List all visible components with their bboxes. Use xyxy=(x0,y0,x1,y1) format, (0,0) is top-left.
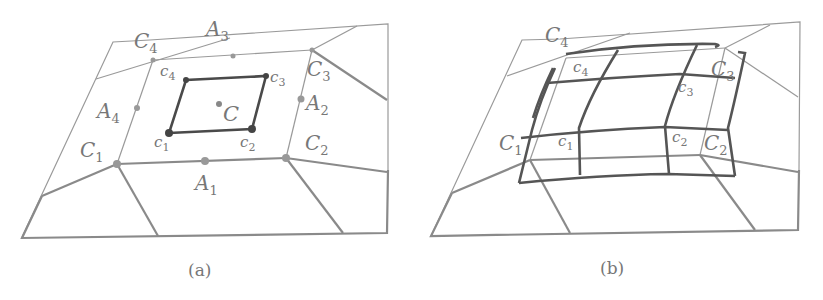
edge xyxy=(117,164,158,236)
point-c4 xyxy=(183,77,189,83)
point-C2 xyxy=(282,154,290,162)
point-c1 xyxy=(165,129,173,137)
point-c3 xyxy=(263,73,269,79)
point-C3 xyxy=(310,48,315,53)
outer-boundary-bottom xyxy=(431,170,799,236)
label-C1: C1 xyxy=(80,138,104,165)
label-C4: C4 xyxy=(134,29,158,56)
caption-b: (b) xyxy=(600,258,624,278)
point-C xyxy=(216,101,222,107)
figure-canvas: C4 A3 c4 c3 C3 A4 C A2 c1 c2 C1 C2 A1 (a… xyxy=(0,0,823,300)
point-A2 xyxy=(298,96,305,103)
point-A3 xyxy=(231,54,236,59)
edge xyxy=(700,155,755,230)
label-C2: C2 xyxy=(704,131,728,158)
label-c1: c1 xyxy=(558,132,573,153)
point-A1 xyxy=(201,157,209,165)
label-A3: A3 xyxy=(204,17,229,44)
panel-b: C4 c4 C3 c3 C1 c1 c2 C2 (b) xyxy=(431,22,800,278)
label-c3: c3 xyxy=(270,68,285,89)
point-C4 xyxy=(151,58,156,63)
label-c4: c4 xyxy=(573,58,588,79)
label-C1: C1 xyxy=(499,131,523,158)
edge xyxy=(700,155,798,172)
edge xyxy=(286,158,387,172)
label-A4: A4 xyxy=(95,99,120,126)
edge xyxy=(312,26,357,50)
label-C4: C4 xyxy=(545,23,569,50)
label-c4: c4 xyxy=(160,62,175,83)
label-c3: c3 xyxy=(678,78,693,99)
point-c2 xyxy=(248,125,256,133)
label-C: C xyxy=(223,102,239,126)
edge xyxy=(286,158,343,233)
edge xyxy=(530,155,700,160)
label-c2: c2 xyxy=(672,128,687,149)
edge xyxy=(530,160,570,233)
point-C1 xyxy=(113,160,121,168)
caption-a: (a) xyxy=(188,260,211,280)
panel-a: C4 A3 c4 c3 C3 A4 C A2 c1 c2 C1 C2 A1 (a… xyxy=(22,17,388,280)
edge xyxy=(725,25,770,48)
label-C2: C2 xyxy=(305,131,329,158)
label-c2: c2 xyxy=(240,133,255,154)
label-C3: C3 xyxy=(711,57,735,84)
label-A1: A1 xyxy=(193,171,218,198)
edge-c4-c1 xyxy=(117,60,153,164)
point-A4 xyxy=(134,105,140,111)
label-A2: A2 xyxy=(304,91,329,118)
